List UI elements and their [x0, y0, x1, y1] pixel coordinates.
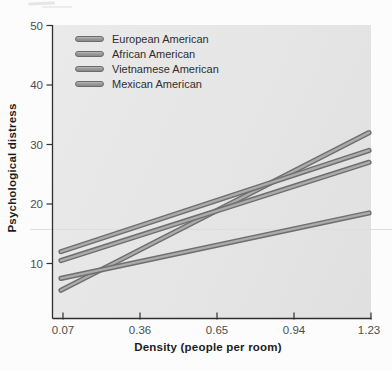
- line-swatch-icon: [75, 36, 104, 42]
- legend-label: European American: [112, 33, 209, 45]
- legend: European American African American Vietn…: [75, 31, 219, 91]
- legend-label: Mexican American: [112, 78, 202, 90]
- y-tick-label: 40: [30, 79, 43, 91]
- y-axis-title: Psychological distress: [6, 93, 18, 243]
- legend-label: Vietnamese American: [112, 63, 219, 75]
- legend-item-african-american: African American: [75, 46, 219, 61]
- x-tick-label: 0.36: [129, 324, 151, 336]
- line-swatch-icon: [75, 66, 104, 72]
- x-axis-title: Density (people per room): [63, 341, 353, 353]
- legend-item-vietnamese-american: Vietnamese American: [75, 61, 219, 76]
- legend-item-mexican-american: Mexican American: [75, 76, 219, 91]
- y-tick-label: 20: [30, 198, 43, 210]
- y-tick-label: 30: [30, 139, 43, 151]
- x-tick-label: 1.23: [358, 324, 380, 336]
- x-tick-label: 0.94: [283, 324, 306, 336]
- density-distress-figure: 10203040500.070.360.650.941.23 Psycholog…: [0, 0, 392, 371]
- y-tick-label: 50: [30, 20, 43, 32]
- data-line-core: [61, 150, 369, 251]
- x-tick-label: 0.65: [206, 324, 228, 336]
- legend-item-european-american: European American: [75, 31, 219, 46]
- line-swatch-icon: [75, 51, 104, 57]
- x-tick-label: 0.07: [52, 324, 74, 336]
- line-swatch-icon: [75, 81, 104, 87]
- legend-label: African American: [112, 48, 195, 60]
- y-tick-label: 10: [30, 258, 43, 270]
